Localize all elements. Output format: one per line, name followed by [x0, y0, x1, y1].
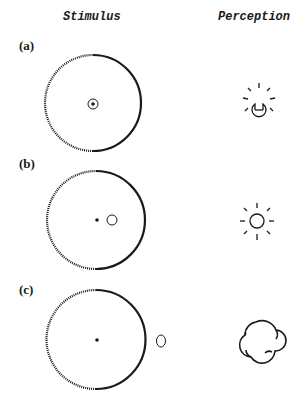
circle-dashed-half [47, 290, 96, 389]
panel-c-stimulus [47, 290, 166, 389]
figure-canvas [0, 0, 306, 401]
circle-solid-half [93, 55, 141, 151]
center-dot [91, 102, 95, 106]
keyhole-lightbulb-icon [243, 83, 275, 117]
panel-a-stimulus [45, 55, 141, 151]
center-dot [95, 338, 99, 342]
center-dot [95, 218, 99, 222]
small-circle [107, 215, 117, 225]
circle-dashed-half [47, 171, 96, 269]
panel-b-stimulus [47, 171, 145, 269]
circle-dashed-half [45, 55, 93, 151]
sun-icon [240, 203, 274, 240]
circle-solid-half [96, 290, 146, 389]
small-oval [157, 335, 166, 347]
circle-solid-half [96, 171, 145, 269]
cloud-icon [240, 321, 286, 363]
